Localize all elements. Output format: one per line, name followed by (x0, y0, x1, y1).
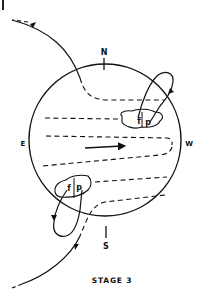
south-leading-label: f (67, 184, 71, 193)
field-line-north-outer (12, 20, 80, 78)
arrow-north-icon (30, 22, 36, 28)
rotation-arrow (85, 146, 122, 148)
label-north: N (101, 48, 108, 57)
south-active-region (55, 175, 91, 197)
label-south: S (103, 242, 109, 251)
field-line-south-outer (22, 236, 80, 284)
label-west: W (185, 140, 193, 148)
south-preceding-label: p (76, 183, 82, 192)
north-leading-label: f (137, 117, 141, 126)
arrow-south-icon (74, 244, 79, 250)
label-east: E (21, 140, 26, 148)
arrow-loop-south-icon (51, 215, 57, 221)
stage-caption: STAGE 3 (92, 276, 132, 285)
sun-disk (29, 64, 181, 216)
solar-diagram: N S E W f p f p STAGE 3 (0, 0, 197, 305)
north-preceding-label: p (145, 118, 151, 127)
